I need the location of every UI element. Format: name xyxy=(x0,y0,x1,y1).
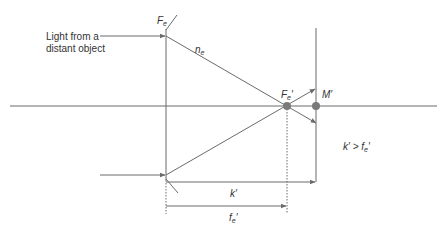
index-label-sub: e xyxy=(201,49,205,56)
condition-label: k′ > fe′ xyxy=(343,141,371,153)
focal-point-label-prime: ′ xyxy=(291,89,294,100)
lens xyxy=(166,15,178,214)
optics-diagram: Light from a distant object Fe ne Fe′ M′… xyxy=(0,0,442,236)
condition-label-main: k′ > f xyxy=(343,141,365,152)
refracted-ray-top xyxy=(166,36,316,123)
distance-f-label: fe′ xyxy=(229,212,239,224)
lens-label: Fe xyxy=(157,15,167,27)
distance-k-label: k′ xyxy=(230,188,238,199)
lens-top-edge xyxy=(166,15,177,30)
image-point-dot xyxy=(312,102,320,110)
image-point-label: M′ xyxy=(322,89,333,100)
index-label: ne xyxy=(195,44,205,56)
condition-label-prime: ′ xyxy=(368,141,371,152)
lens-bottom-edge xyxy=(166,179,178,193)
distance-f-label-prime: ′ xyxy=(236,212,239,223)
focal-point-dot xyxy=(283,102,291,110)
light-caption-line1: Light from a xyxy=(46,31,99,42)
refracted-ray-bottom xyxy=(166,89,315,175)
lens-label-sub: e xyxy=(163,20,167,27)
focal-point-label: Fe′ xyxy=(281,89,294,101)
light-caption-line2: distant object xyxy=(46,43,105,54)
